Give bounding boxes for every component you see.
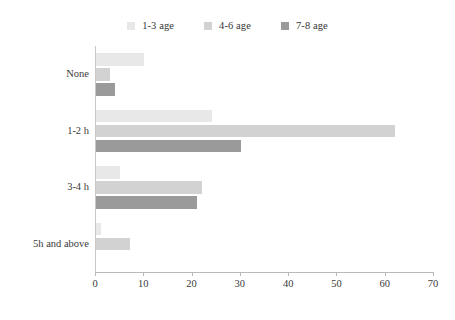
bar-4-6-age-5h-and-above[interactable] [96, 238, 130, 251]
x-tick-mark [192, 272, 193, 276]
bar-group: 5h and above [96, 223, 433, 266]
x-tick-label: 40 [268, 279, 308, 290]
bar-1-3-age-none[interactable] [96, 53, 144, 66]
bar-row [96, 196, 433, 209]
x-tick-mark [385, 272, 386, 276]
bar-7-8-age-3-4-h[interactable] [96, 196, 197, 209]
bar-row [96, 140, 433, 153]
x-tick-mark [433, 272, 434, 276]
bar-row [96, 53, 433, 66]
legend-swatch-7-8-age-icon [281, 22, 289, 30]
bar-4-6-age-none[interactable] [96, 68, 110, 81]
legend-label: 7-8 age [296, 21, 328, 32]
bar-group: 1-2 h [96, 110, 433, 153]
x-tick-mark [95, 272, 96, 276]
legend-swatch-1-3-age-icon [127, 22, 135, 30]
y-axis-category-label: 3-4 h [0, 182, 89, 193]
legend-label: 1-3 age [142, 21, 174, 32]
x-tick-label: 50 [316, 279, 356, 290]
bar-4-6-age-3-4-h[interactable] [96, 181, 202, 194]
bar-7-8-age-none[interactable] [96, 83, 115, 96]
x-tick-label: 70 [413, 279, 453, 290]
legend-entry-7-8-age[interactable]: 7-8 age [281, 21, 328, 32]
bar-row [96, 181, 433, 194]
bar-row [96, 68, 433, 81]
legend-swatch-4-6-age-icon [204, 22, 212, 30]
x-tick-mark [240, 272, 241, 276]
bar-row [96, 253, 433, 266]
y-axis-category-label: 5h and above [0, 239, 89, 250]
x-tick-mark [336, 272, 337, 276]
x-tick-label: 20 [172, 279, 212, 290]
bar-row [96, 83, 433, 96]
bar-1-3-age-1-2-h[interactable] [96, 110, 212, 123]
bar-row [96, 223, 433, 236]
bar-row [96, 166, 433, 179]
x-tick-label: 10 [123, 279, 163, 290]
bar-group: 3-4 h [96, 166, 433, 209]
bar-1-3-age-5h-and-above[interactable] [96, 223, 101, 236]
legend-label: 4-6 age [219, 21, 251, 32]
legend-entry-1-3-age[interactable]: 1-3 age [127, 21, 174, 32]
bar-row [96, 238, 433, 251]
x-tick-mark [143, 272, 144, 276]
bar-group: None [96, 53, 433, 96]
x-tick-label: 30 [220, 279, 260, 290]
x-tick-mark [288, 272, 289, 276]
bar-chart: 1-3 age4-6 age7-8 age 010203040506070 No… [0, 0, 455, 320]
x-tick-label: 0 [75, 279, 115, 290]
bar-1-3-age-3-4-h[interactable] [96, 166, 120, 179]
chart-legend: 1-3 age4-6 age7-8 age [0, 18, 455, 34]
x-axis-line [95, 272, 433, 273]
bar-row [96, 110, 433, 123]
plot-area: 010203040506070 None1-2 h3-4 h5h and abo… [95, 46, 433, 272]
legend-entry-4-6-age[interactable]: 4-6 age [204, 21, 251, 32]
bar-7-8-age-1-2-h[interactable] [96, 140, 241, 153]
y-axis-category-label: None [0, 69, 89, 80]
x-tick-label: 60 [365, 279, 405, 290]
bar-4-6-age-1-2-h[interactable] [96, 125, 395, 138]
y-axis-category-label: 1-2 h [0, 126, 89, 137]
bar-row [96, 125, 433, 138]
